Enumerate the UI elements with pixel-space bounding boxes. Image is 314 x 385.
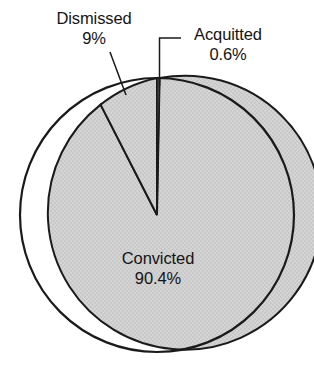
slice-label-convicted-value: 90.4% (97, 269, 219, 288)
pie-slice-convicted (48, 76, 314, 350)
slice-label-acquitted: Acquitted 0.6% (172, 25, 284, 64)
dismissed-leader-line (110, 52, 126, 95)
slice-label-convicted-name: Convicted (97, 249, 219, 268)
slice-label-dismissed: Dismissed 9% (34, 9, 154, 48)
slice-label-acquitted-value: 0.6% (172, 45, 284, 64)
slice-label-dismissed-value: 9% (34, 29, 154, 48)
slice-label-dismissed-name: Dismissed (34, 9, 154, 28)
slice-label-acquitted-name: Acquitted (172, 25, 284, 44)
pie-chart: Dismissed 9% Acquitted 0.6% Convicted 90… (0, 0, 314, 385)
slice-label-convicted: Convicted 90.4% (97, 249, 219, 288)
